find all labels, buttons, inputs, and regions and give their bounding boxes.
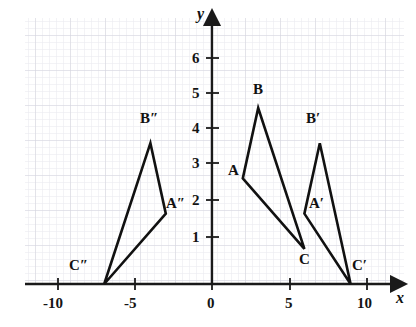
y-tick-label-1: 1 [192,230,200,245]
vertex-label-b-double-prime: B″ [140,111,158,126]
y-tick-label-6: 6 [192,51,200,66]
x-tick-label--10: -10 [43,296,63,311]
vertex-label-c-prime: C′ [352,258,367,273]
x-tick-label-10: 10 [357,296,372,311]
y-tick-label-4: 4 [192,121,200,136]
vertex-label-b: B [253,82,263,97]
vertex-label-c-double-prime: C″ [69,258,88,273]
x-tick-label--5: -5 [124,296,137,311]
y-tick-label-5: 5 [192,86,200,101]
x-tick-label-5: 5 [285,296,293,311]
y-tick-label-3: 3 [192,156,200,171]
vertex-label-a-double-prime: A″ [166,196,185,211]
x-axis-label: x [396,290,404,306]
vertex-label-c: C [299,252,310,267]
figure-canvas: y x -10 -5 0 5 10 1 2 3 4 5 6 A B C A′ B… [0,0,416,327]
y-tick-label-2: 2 [192,193,200,208]
vertex-label-b-prime: B′ [306,111,320,126]
y-axis-label: y [197,6,204,22]
x-tick-label-0: 0 [207,296,215,311]
coordinate-plane-svg [0,0,416,327]
vertex-label-a: A [228,163,239,178]
vertex-label-a-prime: A′ [309,196,324,211]
